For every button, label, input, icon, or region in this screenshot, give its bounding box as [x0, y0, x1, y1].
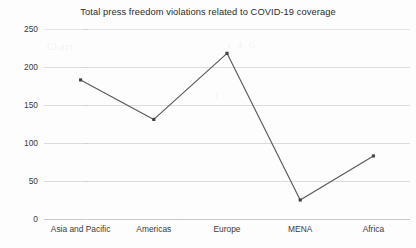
- data-point-asia-and-pacific: [79, 78, 82, 81]
- series-line: [81, 53, 374, 200]
- chart-container: Total press freedom violations related t…: [0, 0, 416, 248]
- data-point-americas: [152, 118, 155, 121]
- data-point-europe: [225, 52, 228, 55]
- series-layer: [0, 0, 416, 248]
- data-point-mena: [299, 198, 302, 201]
- data-point-africa: [372, 154, 375, 157]
